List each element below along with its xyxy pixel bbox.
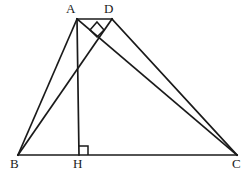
segment-bd <box>18 19 112 155</box>
vertex-label-b: B <box>10 157 19 170</box>
segment-ac <box>77 19 237 155</box>
right-angle-marker-h <box>79 146 88 155</box>
geometry-figure: A D B H C <box>0 0 252 177</box>
segment-ab <box>18 19 77 155</box>
vertex-label-h: H <box>73 157 82 170</box>
segment-dc <box>112 19 237 155</box>
geometry-canvas <box>0 0 252 177</box>
vertex-label-c: C <box>232 157 241 170</box>
segment-ah <box>77 19 79 155</box>
vertex-label-d: D <box>104 2 113 15</box>
vertex-label-a: A <box>66 2 75 15</box>
